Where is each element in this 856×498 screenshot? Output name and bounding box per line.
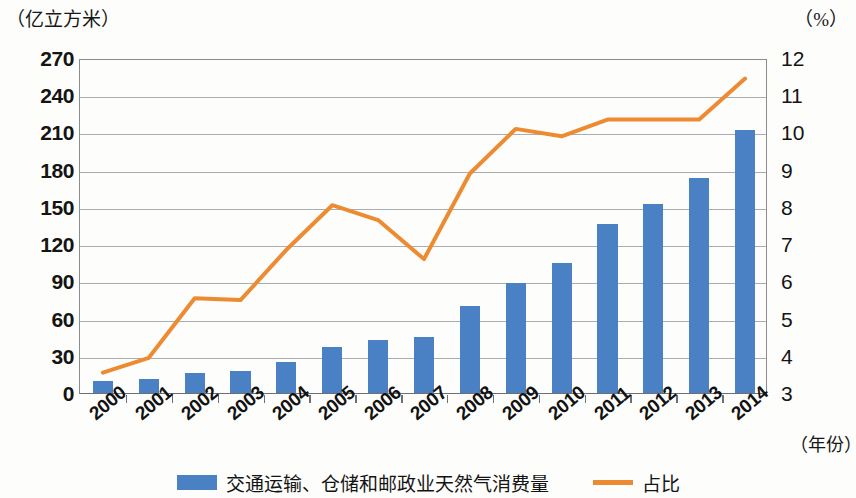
right-y-tick-label: 3 <box>781 382 815 406</box>
legend-swatch-line-icon <box>593 480 633 485</box>
left-y-tick-label: 180 <box>12 159 74 183</box>
left-y-tick-label: 150 <box>12 196 74 220</box>
right-y-tick-label: 8 <box>781 196 815 220</box>
legend-label-bar: 交通运输、仓储和邮政业天然气消费量 <box>226 469 549 496</box>
left-y-tick-label: 120 <box>12 233 74 257</box>
left-y-tick-label: 210 <box>12 121 74 145</box>
chart-container: （亿立方米） （%） （年份） 030609012015018021024027… <box>0 0 856 498</box>
left-y-tick-label: 0 <box>12 382 74 406</box>
chart-legend: 交通运输、仓储和邮政业天然气消费量 占比 <box>0 466 856 498</box>
left-y-axis: 0306090120150180210240270 <box>6 0 74 498</box>
x-axis-labels: 2000200120022003200420052006200720082009… <box>79 394 767 464</box>
legend-label-line: 占比 <box>642 469 680 496</box>
line-series <box>80 60 768 395</box>
legend-item-line: 占比 <box>593 469 680 496</box>
left-y-tick-label: 90 <box>12 270 74 294</box>
right-y-tick-label: 7 <box>781 233 815 257</box>
right-y-tick-label: 11 <box>781 84 815 108</box>
left-y-tick-label: 240 <box>12 84 74 108</box>
left-y-tick-label: 30 <box>12 345 74 369</box>
right-y-axis: 3456789101112 <box>781 0 821 498</box>
right-y-tick-label: 6 <box>781 270 815 294</box>
line-path <box>103 79 745 373</box>
right-y-tick-label: 4 <box>781 345 815 369</box>
right-y-tick-label: 12 <box>781 47 815 71</box>
right-y-tick-label: 10 <box>781 121 815 145</box>
left-y-tick-label: 60 <box>12 308 74 332</box>
right-y-tick-label: 9 <box>781 159 815 183</box>
right-y-tick-label: 5 <box>781 308 815 332</box>
left-y-tick-label: 270 <box>12 47 74 71</box>
legend-item-bar: 交通运输、仓储和邮政业天然气消费量 <box>177 469 549 496</box>
legend-swatch-bar-icon <box>177 475 217 490</box>
plot-area <box>79 59 767 394</box>
